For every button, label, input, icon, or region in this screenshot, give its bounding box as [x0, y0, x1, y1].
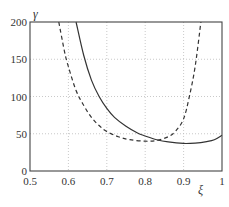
x-tick-label: 0.7	[100, 175, 114, 187]
x-tick-label: 0.8	[138, 175, 152, 187]
x-axis-label: ξ	[198, 183, 204, 197]
grid-lines	[30, 22, 222, 171]
data-series	[59, 22, 222, 144]
x-tick-label: 0.9	[177, 175, 191, 187]
y-tick-label: 0	[22, 165, 28, 177]
y-tick-label: 150	[11, 53, 28, 65]
y-tick-label: 50	[16, 128, 28, 140]
x-tick-label: 0.6	[62, 175, 76, 187]
y-tick-label: 200	[11, 16, 28, 28]
y-tick-labels: 050100150200	[11, 16, 28, 177]
x-tick-label: 1	[219, 175, 225, 187]
x-tick-labels: 0.50.60.70.80.91	[23, 175, 225, 187]
line-chart: 0.50.60.70.80.91 050100150200 γ ξ	[0, 0, 229, 207]
y-tick-label: 100	[11, 91, 28, 103]
y-axis-label: γ	[33, 7, 38, 21]
solid-curve	[76, 22, 222, 144]
